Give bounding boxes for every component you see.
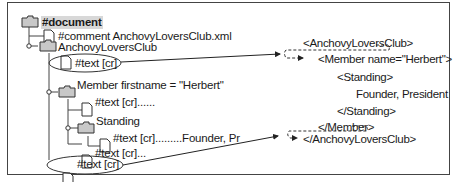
tree-node-text-cr-4: #text [cr] bbox=[77, 158, 119, 171]
tree-node-member: Member firstname = "Herbert" bbox=[77, 79, 224, 92]
xml-line-open-member: <Member name="Herbert"> bbox=[318, 53, 452, 66]
xml-line-open-club: <AnchovyLoversClub> bbox=[303, 37, 413, 50]
tree-node-text-founder: #text [cr].........Founder, Pr bbox=[113, 132, 240, 145]
tree-node-standing: Standing bbox=[96, 115, 140, 128]
xml-line-open-standing: <Standing> bbox=[337, 71, 393, 84]
xml-line-content: Founder, President bbox=[356, 88, 448, 101]
tree-node-anchovyloversclub: AnchovyLoversClub bbox=[58, 41, 157, 54]
tree-node-text-cr-2: #text [cr]...... bbox=[95, 96, 155, 109]
xml-line-close-club: </AnchovyLoversClub> bbox=[303, 133, 416, 146]
xml-line-close-standing: </Standing> bbox=[337, 105, 396, 118]
file-icon bbox=[82, 103, 92, 116]
folder-icon bbox=[40, 40, 56, 51]
file-icon bbox=[63, 173, 73, 182]
folder-icon bbox=[22, 16, 38, 27]
tree-node-document: #document bbox=[41, 16, 103, 29]
file-icon bbox=[61, 56, 71, 69]
tree-node-text-cr-1: #text [cr] bbox=[75, 57, 117, 70]
folder-icon bbox=[78, 122, 94, 133]
folder-icon bbox=[59, 86, 75, 97]
